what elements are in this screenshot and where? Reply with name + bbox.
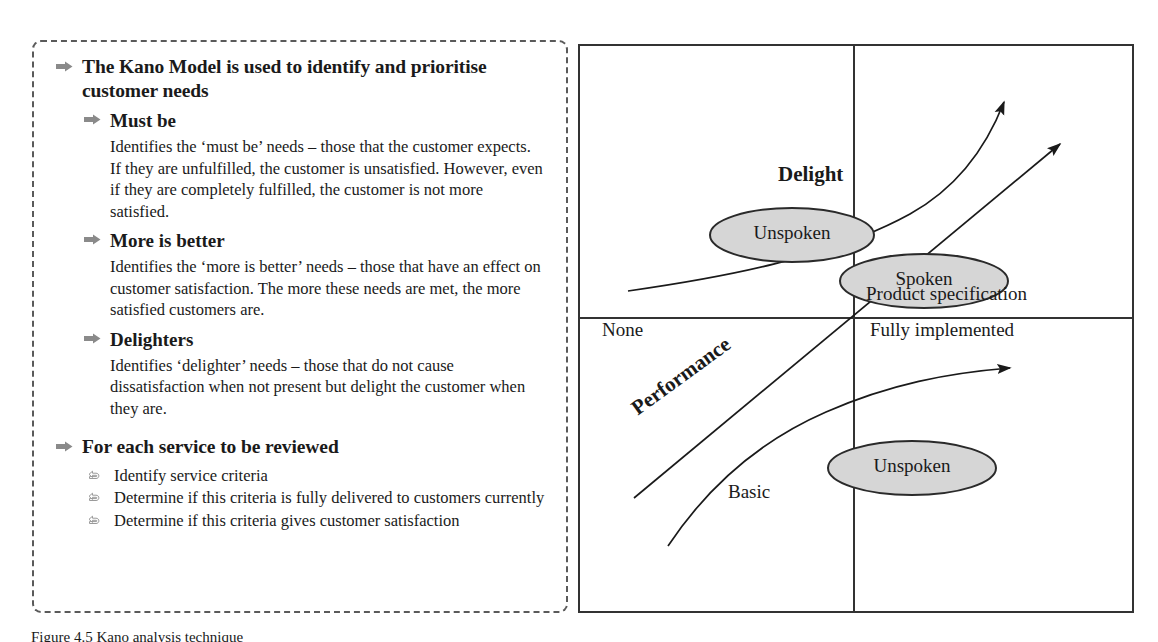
ribbon-bullet-icon <box>88 470 103 482</box>
callout-label-spoken: Spoken <box>860 268 988 290</box>
bullet-title-text: The Kano Model is used to identify and p… <box>82 56 487 101</box>
bullet-item-review-3: Determine if this criteria gives custome… <box>52 510 552 532</box>
bullet-item-title: The Kano Model is used to identify and p… <box>52 55 552 102</box>
bullet-body-must-be: Identifies the ‘must be’ needs – those t… <box>52 136 552 222</box>
figure-caption: Figure 4.5 Kano analysis technique <box>31 628 731 642</box>
pennant-bullet-icon <box>84 234 101 246</box>
basic-curve-label: Basic <box>728 481 770 502</box>
bullet-body-more-is-better: Identifies the ‘more is better’ needs – … <box>52 256 552 321</box>
bullet-item-must-be: Must be <box>52 109 552 132</box>
pennant-bullet-icon <box>84 333 101 345</box>
bullet-heading-text: Must be <box>110 110 176 131</box>
pennant-bullet-icon <box>56 441 73 453</box>
bullet-review-heading-text: For each service to be reviewed <box>82 436 339 457</box>
bullet-review-item-text: Determine if this criteria is fully deli… <box>114 487 552 509</box>
bullet-review-item-text: Determine if this criteria gives custome… <box>114 510 552 532</box>
callout-label-unspoken-lower: Unspoken <box>848 455 976 477</box>
x-axis-fully-implemented-label: Fully implemented <box>870 319 1014 340</box>
bullet-body-delighters: Identifies ‘delighter’ needs – those tha… <box>52 355 552 420</box>
bullet-item-more-is-better: More is better <box>52 229 552 252</box>
kano-model-chart: Customer satisfaction High Low None Prod… <box>578 44 1134 613</box>
bullet-review-item-text: Identify service criteria <box>114 465 552 487</box>
bullet-item-delighters: Delighters <box>52 328 552 351</box>
pennant-bullet-icon <box>84 114 101 126</box>
delight-curve-label: Delight <box>778 164 843 185</box>
kano-description-panel: The Kano Model is used to identify and p… <box>32 40 568 613</box>
callout-label-unspoken-upper: Unspoken <box>728 222 856 244</box>
bullet-item-review-2: Determine if this criteria is fully deli… <box>52 487 552 509</box>
x-axis-none-label: None <box>602 319 643 340</box>
bullet-heading-text: More is better <box>110 230 225 251</box>
pennant-bullet-icon <box>56 61 73 73</box>
bullet-item-review-1: Identify service criteria <box>52 465 552 487</box>
kano-chart-graphics <box>580 46 1132 611</box>
ribbon-bullet-icon <box>88 515 103 527</box>
bullet-item-review-heading: For each service to be reviewed <box>52 435 552 459</box>
ribbon-bullet-icon <box>88 492 103 504</box>
bullet-list: The Kano Model is used to identify and p… <box>52 51 552 531</box>
bullet-heading-text: Delighters <box>110 329 193 350</box>
